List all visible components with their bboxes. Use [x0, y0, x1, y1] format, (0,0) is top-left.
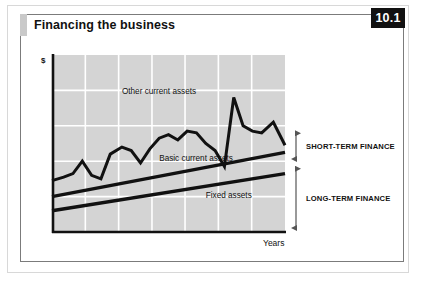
- annotation-basic-current-assets: Basic current assets: [159, 154, 233, 163]
- bracket-label-short-term-finance: SHORT-TERM FINANCE: [306, 142, 395, 151]
- chart-canvas: Other current assetsBasic current assets…: [0, 0, 424, 283]
- finance-brackets: SHORT-TERM FINANCELONG-TERM FINANCE: [296, 133, 395, 228]
- bracket-label-long-term-finance: LONG-TERM FINANCE: [306, 194, 390, 203]
- annotation-fixed-assets: Fixed assets: [206, 191, 252, 200]
- figure-root: Financing the business 10.1 $ Years Othe…: [0, 0, 424, 283]
- annotation-other-current-assets: Other current assets: [122, 87, 196, 96]
